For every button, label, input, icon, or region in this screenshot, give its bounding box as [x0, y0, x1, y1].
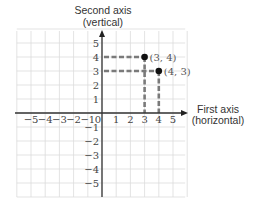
plotted-points: (3, 4)(4, 3) — [141, 52, 190, 77]
horizontal-axis-title-line2: (horizontal) — [192, 114, 245, 126]
x-tick-label: −3 — [52, 114, 67, 125]
y-tick-label: 5 — [93, 38, 99, 49]
x-tick-label: −5 — [24, 114, 39, 125]
y-tick-label: 1 — [93, 94, 99, 105]
y-tick-label: 4 — [93, 52, 99, 63]
point-marker-icon — [156, 68, 163, 75]
y-tick-label: −4 — [84, 164, 99, 175]
x-tick-label: 4 — [156, 114, 162, 125]
point-label: (3, 4) — [150, 52, 177, 63]
vertical-axis-arrow-icon — [99, 30, 105, 37]
x-tick-label: −4 — [38, 114, 53, 125]
coordinate-plane-diagram: −5−4−3−2−11234554321−1−2−3−4−5 (3, 4)(4,… — [0, 0, 257, 207]
point-label: (4, 3) — [164, 66, 191, 77]
y-tick-label: −2 — [84, 136, 99, 147]
vertical-axis-title-line1: Second axis — [74, 4, 131, 16]
y-tick-label: 2 — [93, 80, 99, 91]
x-tick-label: −2 — [66, 114, 81, 125]
x-tick-label: 1 — [113, 114, 119, 125]
y-tick-label: −5 — [84, 178, 99, 189]
x-tick-label: 2 — [127, 114, 133, 125]
y-tick-label: −3 — [84, 150, 99, 161]
y-tick-label: 3 — [93, 66, 99, 77]
origin-label: 0 — [95, 114, 101, 125]
x-tick-label: 3 — [141, 114, 147, 125]
point-marker-icon — [141, 54, 148, 61]
x-tick-label: 5 — [170, 114, 176, 125]
vertical-axis-title-line2: (vertical) — [83, 16, 123, 28]
